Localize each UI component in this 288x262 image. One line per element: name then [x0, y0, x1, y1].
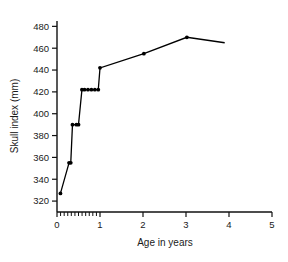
- y-tick-label: 360: [33, 152, 49, 163]
- y-axis-ticks: [52, 26, 57, 201]
- y-tick-label: 440: [33, 64, 49, 75]
- y-axis: 320340360380400420440460480: [33, 21, 57, 212]
- data-point-marker: [71, 123, 75, 127]
- x-tick-label: 0: [54, 219, 59, 230]
- data-point-marker: [83, 88, 87, 92]
- data-series-group: [59, 35, 225, 195]
- x-axis-tick-labels: 012345: [54, 219, 274, 230]
- y-tick-label: 340: [33, 174, 49, 185]
- skull-index-line-chart: 320340360380400420440460480 012345 Age i…: [0, 0, 288, 262]
- x-tick-label: 4: [226, 219, 231, 230]
- series-line-skull-index: [60, 37, 224, 193]
- y-tick-label: 420: [33, 86, 49, 97]
- y-axis-title: Skull index (mm): [9, 79, 20, 153]
- data-point-marker: [86, 88, 90, 92]
- y-tick-label: 460: [33, 43, 49, 54]
- data-point-marker: [90, 88, 94, 92]
- data-point-marker: [98, 66, 102, 70]
- data-point-marker: [69, 161, 73, 165]
- data-point-marker: [142, 52, 146, 56]
- series-data-points: [59, 35, 189, 195]
- x-axis-title: Age in years: [137, 237, 193, 248]
- data-point-marker: [59, 192, 63, 196]
- chart-figure: 320340360380400420440460480 012345 Age i…: [0, 0, 288, 262]
- x-tick-label: 3: [183, 219, 188, 230]
- y-tick-label: 480: [33, 21, 49, 32]
- x-tick-label: 1: [97, 219, 102, 230]
- x-tick-label: 5: [269, 219, 274, 230]
- x-axis: 012345: [54, 212, 274, 230]
- y-tick-label: 400: [33, 108, 49, 119]
- y-tick-label: 320: [33, 195, 49, 206]
- y-axis-tick-labels: 320340360380400420440460480: [33, 21, 49, 207]
- data-point-marker: [93, 88, 97, 92]
- data-point-marker: [77, 123, 81, 127]
- data-point-marker: [96, 88, 100, 92]
- x-tick-label: 2: [140, 219, 145, 230]
- data-point-marker: [185, 35, 189, 39]
- y-tick-label: 380: [33, 130, 49, 141]
